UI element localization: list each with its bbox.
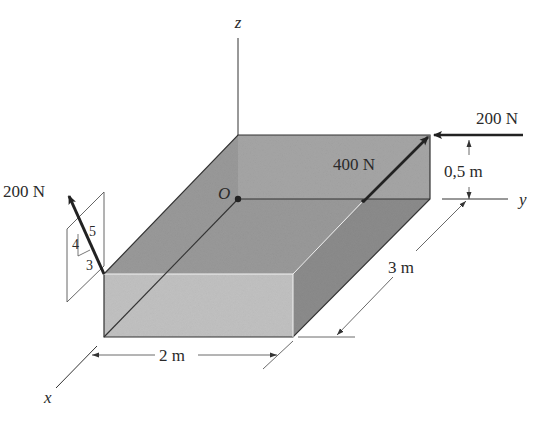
force-left: 4 3 5 200 N [3,182,104,302]
dimension-height: 0,5 m [444,140,483,199]
origin-label: O [218,184,230,203]
slope-hypotenuse: 5 [89,224,96,239]
z-axis: z [234,13,242,135]
dimension-height-label: 0,5 m [444,162,483,181]
slope-horizontal: 3 [86,258,93,273]
rigid-body-diagram: z y x O 4 3 [0,0,535,427]
dimension-width: 2 m [92,341,293,369]
force-diagonal-label: 400 N [333,155,375,174]
slope-vertical: 4 [72,237,79,252]
z-axis-label: z [234,13,242,32]
dimension-width-label: 2 m [159,346,185,365]
box-front-face [104,274,293,337]
box [104,135,430,337]
y-axis-label: y [517,190,527,209]
dimension-depth-label: 3 m [388,258,414,277]
force-left-label: 200 N [3,182,45,201]
force-top-right: 200 N [434,109,523,135]
x-axis-label: x [43,388,52,407]
force-top-right-label: 200 N [476,109,518,128]
